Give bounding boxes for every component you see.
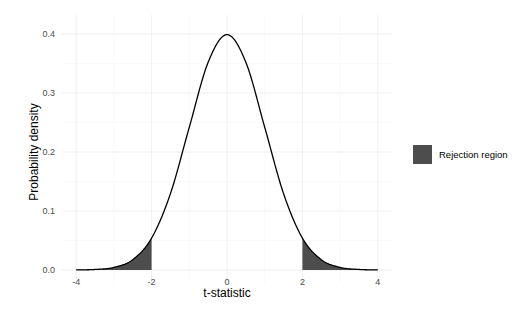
y-tick-labels: 0.00.10.20.30.4	[42, 29, 55, 275]
x-tick-label: -4	[72, 277, 80, 287]
legend-key-rejection-region	[413, 145, 432, 164]
x-tick-label: -2	[148, 277, 156, 287]
legend: Rejection region	[413, 145, 508, 164]
grid-major	[62, 15, 392, 284]
x-axis-title: t-statistic	[203, 286, 250, 300]
y-tick-label: 0.0	[42, 265, 55, 275]
y-tick-label: 0.4	[42, 29, 55, 39]
legend-label-rejection-region: Rejection region	[439, 149, 508, 160]
x-tick-label: 4	[375, 277, 380, 287]
y-axis-title: Probability density	[27, 103, 41, 200]
y-tick-label: 0.3	[42, 88, 55, 98]
t-distribution-chart: 0.00.10.20.30.4 -4-2024 t-statistic Prob…	[0, 0, 529, 326]
x-tick-label: 2	[300, 277, 305, 287]
y-tick-label: 0.1	[42, 206, 55, 216]
y-tick-label: 0.2	[42, 147, 55, 157]
